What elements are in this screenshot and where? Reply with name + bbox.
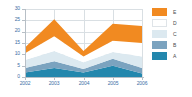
x-tick-label-2003: 2003	[43, 80, 65, 86]
legend-item-d[interactable]: D	[152, 19, 192, 28]
y-tick-mark-20	[22, 32, 25, 33]
legend-swatch-a-icon	[152, 52, 167, 60]
legend-item-c[interactable]: C	[152, 30, 192, 39]
legend-item-b[interactable]: B	[152, 41, 192, 50]
y-tick-mark-30	[22, 9, 25, 10]
stacked-area-chart-widget: 30 25 20 15 10 5 0 2002	[0, 0, 192, 97]
y-tick-mark-10	[22, 54, 25, 55]
y-axis-line	[25, 9, 26, 78]
legend-label-b: B	[173, 42, 176, 48]
x-tick-label-2004: 2004	[73, 80, 95, 86]
legend-swatch-b-icon	[152, 41, 167, 49]
legend-label-d: D	[173, 20, 177, 26]
series-areas	[25, 9, 143, 77]
x-tick-label-2006: 2006	[131, 80, 153, 86]
y-tick-label-30: 30	[4, 6, 20, 11]
x-axis-tick-labels: 2002 2003 2004 2005 2006	[25, 80, 144, 90]
y-tick-mark-5	[22, 66, 25, 67]
y-tick-label-0: 0	[4, 74, 20, 79]
y-tick-label-15: 15	[4, 40, 20, 45]
y-tick-mark-15	[22, 43, 25, 44]
legend-item-e[interactable]: E	[152, 8, 192, 17]
legend-swatch-e-icon	[152, 8, 167, 16]
legend-swatch-d-icon	[152, 19, 167, 27]
x-tick-label-2002: 2002	[14, 80, 36, 86]
y-tick-label-25: 25	[4, 17, 20, 22]
chart-legend: E D C B A	[152, 8, 192, 64]
legend-item-a[interactable]: A	[152, 52, 192, 61]
legend-label-a: A	[173, 53, 176, 59]
y-tick-label-10: 10	[4, 51, 20, 56]
x-tick-label-2005: 2005	[102, 80, 124, 86]
legend-swatch-c-icon	[152, 30, 167, 38]
legend-label-c: C	[173, 31, 177, 37]
y-tick-mark-25	[22, 20, 25, 21]
plot-area	[25, 9, 143, 77]
y-tick-label-20: 20	[4, 28, 20, 33]
y-tick-label-5: 5	[4, 63, 20, 68]
legend-label-e: E	[173, 9, 176, 15]
